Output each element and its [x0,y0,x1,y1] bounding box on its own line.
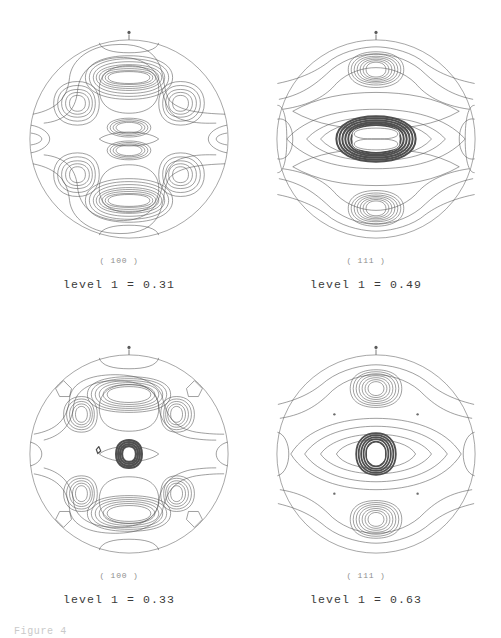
marker-dot [333,492,335,494]
contour-plot-svg [18,343,240,565]
pole-figure-outline [30,40,228,238]
pole-figure-panel-bottom-right: ( 111 ) level 1 = 0.63 [255,325,501,635]
pole-figure-row-top: ( 100 ) level 1 = 0.31 [0,10,501,320]
contour-lines [277,365,474,543]
contour-lines [31,43,227,235]
pole-figure-panel-bottom-left: ( 100 ) level 1 = 0.33 [8,325,258,635]
marker-dot [333,413,335,415]
pole-index-label: ( 111 ) [255,256,477,265]
contour-level-label: level 1 = 0.63 [245,593,487,606]
north-tick-mark [374,31,377,40]
pole-figure-row-bottom: ( 100 ) level 1 = 0.33 [0,325,501,635]
pole-figure-plot-111-lower [265,343,487,565]
pole-figure-plot-111-upper [265,28,487,250]
marker-dot [416,492,418,494]
pole-figure-panel-top-left: ( 100 ) level 1 = 0.31 [8,10,258,320]
marker-dot [416,413,418,415]
pole-figure-plot-100-lower [18,343,240,565]
pole-index-label: ( 100 ) [8,256,230,265]
figure-caption: Figure 4 [14,626,67,637]
contour-lines [30,358,227,550]
contour-plot-svg [18,28,240,250]
contour-level-label: level 1 = 0.31 [0,278,240,291]
contour-lines [277,47,474,231]
contour-level-label: level 1 = 0.33 [0,593,240,606]
north-tick-mark [127,31,130,40]
pole-figure-plot-100-upper [18,28,240,250]
contour-plot-svg [265,28,487,250]
figure-sheet: ( 100 ) level 1 = 0.31 [0,0,501,638]
pole-index-label: ( 111 ) [255,571,477,580]
pole-figure-panel-top-right: ( 111 ) level 1 = 0.49 [255,10,501,320]
north-tick-mark [374,346,377,355]
pole-index-label: ( 100 ) [8,571,230,580]
contour-plot-svg [265,343,487,565]
contour-level-label: level 1 = 0.49 [245,278,487,291]
north-tick-mark [127,346,130,355]
